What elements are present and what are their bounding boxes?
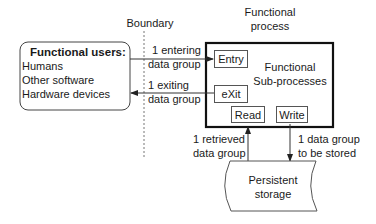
stored-label-1: 1 data group: [298, 133, 360, 146]
exit-box: eXit: [214, 85, 248, 103]
functional-users-title: Functional users:: [30, 46, 126, 59]
sub-processes-label-2: Sub-processes: [250, 75, 330, 88]
stored-label-2: to be stored: [298, 147, 356, 160]
entering-label-2: data group: [148, 58, 201, 71]
functional-user-other-software: Other software: [22, 74, 94, 87]
functional-process-label-1: Functional: [238, 6, 302, 19]
storage-label-2: storage: [236, 188, 310, 201]
diagram-lines: [0, 0, 376, 224]
boundary-label: Boundary: [118, 17, 182, 30]
read-box: Read: [231, 106, 265, 123]
retrieved-label-2: data group: [193, 147, 246, 160]
functional-user-hardware-devices: Hardware devices: [22, 88, 110, 101]
retrieved-label-1: 1 retrieved: [193, 133, 245, 146]
write-box: Write: [276, 106, 308, 123]
functional-user-humans: Humans: [22, 60, 63, 73]
functional-process-label-2: process: [238, 20, 302, 33]
storage-label-1: Persistent: [236, 174, 310, 187]
exiting-label-2: data group: [148, 93, 201, 106]
entry-box: Entry: [214, 50, 248, 68]
exiting-label-1: 1 exiting: [148, 79, 189, 92]
entering-label-1: 1 entering: [152, 44, 201, 57]
sub-processes-label-1: Functional: [250, 61, 330, 74]
